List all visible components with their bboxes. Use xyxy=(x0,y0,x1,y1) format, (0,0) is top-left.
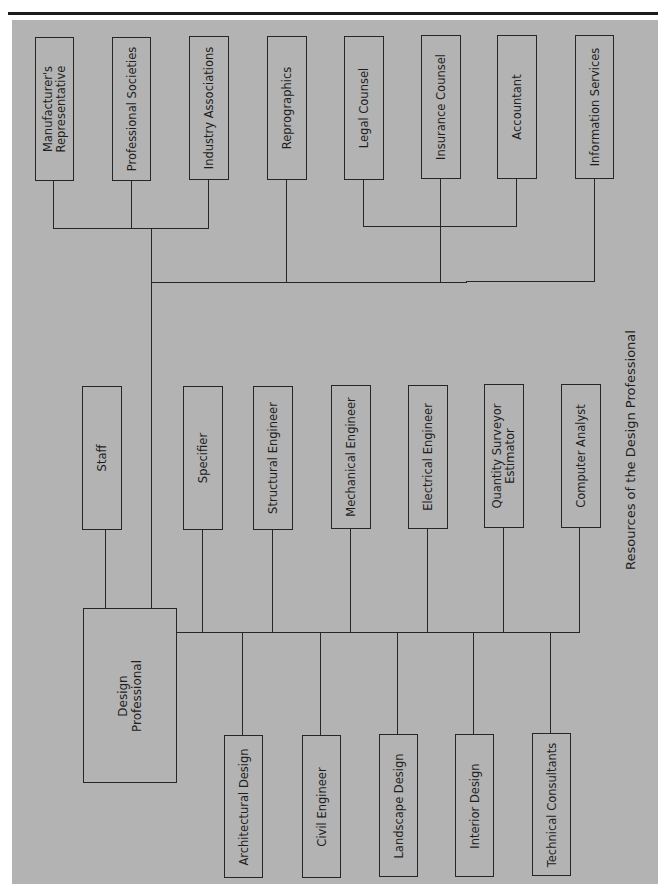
node-computer-analyst: Computer Analyst xyxy=(561,384,601,528)
connector xyxy=(272,529,273,632)
node-label: Staff xyxy=(96,445,109,472)
node-label: Insurance Counsel xyxy=(435,54,448,160)
node-label: Specifier xyxy=(197,433,210,483)
node-label: Computer Analyst xyxy=(575,404,588,508)
node-interior-design: Interior Design xyxy=(455,734,494,877)
node-label: Electrical Engineer xyxy=(422,403,435,511)
node-information-services: Information Services xyxy=(575,35,614,179)
connector xyxy=(286,180,287,282)
node-specifier: Specifier xyxy=(183,386,223,530)
node-label: Reprographics xyxy=(281,67,294,150)
node-manufacturers-representative: Manufacturer'sRepresentative xyxy=(35,37,74,181)
connector xyxy=(350,528,351,632)
node-label: DesignProfessional xyxy=(116,659,144,731)
connector xyxy=(363,226,517,227)
connector xyxy=(151,282,467,283)
node-label: Technical Consultants xyxy=(545,742,558,867)
node-design-professional: DesignProfessional xyxy=(83,608,177,783)
connector xyxy=(53,180,54,228)
node-professional-societies: Professional Societies xyxy=(112,37,151,181)
node-landscape-design: Landscape Design xyxy=(379,734,418,877)
connector xyxy=(516,178,517,226)
connector xyxy=(242,632,243,735)
node-mechanical-engineer: Mechanical Engineer xyxy=(331,385,371,529)
connector xyxy=(320,632,321,735)
node-staff: Staff xyxy=(82,386,122,530)
connector xyxy=(594,178,595,282)
connector xyxy=(202,529,203,632)
connector xyxy=(550,632,551,735)
node-label: Mechanical Engineer xyxy=(345,397,358,517)
node-reprographics: Reprographics xyxy=(267,36,307,180)
node-quantity-surveyor-estimator: Quantity SurveyorEstimator xyxy=(484,384,524,528)
node-label: Landscape Design xyxy=(392,753,405,858)
main-trunk xyxy=(151,228,152,609)
diagram-title: Resources of the Design Professional xyxy=(623,330,638,570)
top-rule xyxy=(8,12,658,15)
node-label: Information Services xyxy=(588,48,601,167)
connector xyxy=(427,528,428,632)
connector xyxy=(177,632,580,633)
node-label: Industry Associations xyxy=(203,47,216,169)
node-label: Professional Societies xyxy=(125,47,138,171)
connector xyxy=(363,179,364,227)
connector xyxy=(397,632,398,735)
connector xyxy=(473,632,474,735)
connector xyxy=(466,281,594,282)
node-label: Civil Engineer xyxy=(315,767,328,846)
node-industry-associations: Industry Associations xyxy=(189,36,229,180)
node-structural-engineer: Structural Engineer xyxy=(253,386,293,530)
node-label: Accountant xyxy=(511,74,524,139)
node-label: Structural Engineer xyxy=(267,402,280,514)
connector xyxy=(53,228,209,229)
node-accountant: Accountant xyxy=(497,35,537,179)
node-electrical-engineer: Electrical Engineer xyxy=(408,385,448,529)
node-civil-engineer: Civil Engineer xyxy=(302,735,341,878)
node-legal-counsel: Legal Counsel xyxy=(344,36,384,180)
connector xyxy=(131,180,132,228)
connector xyxy=(579,527,580,632)
connector xyxy=(208,180,209,228)
node-label: Architectural Design xyxy=(237,748,250,865)
connector xyxy=(503,527,504,632)
node-label: Legal Counsel xyxy=(358,68,371,148)
node-technical-consultants: Technical Consultants xyxy=(532,733,571,876)
node-label: Quantity SurveyorEstimator xyxy=(491,403,517,508)
connector xyxy=(440,179,441,282)
node-insurance-counsel: Insurance Counsel xyxy=(421,35,461,179)
connector xyxy=(105,529,106,609)
node-label: Interior Design xyxy=(468,763,481,848)
node-architectural-design: Architectural Design xyxy=(224,735,263,878)
node-label: Manufacturer'sRepresentative xyxy=(42,66,68,153)
